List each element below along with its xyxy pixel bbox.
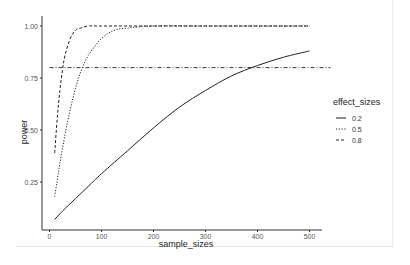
y-tick-label: 1.00 <box>24 23 38 30</box>
legend-label: 0.8 <box>352 137 362 144</box>
series-line-0.8 <box>55 26 310 153</box>
series-line-0.5 <box>55 26 310 197</box>
legend-label: 0.2 <box>352 115 362 122</box>
legend-entries: 0.20.50.8 <box>336 115 362 144</box>
y-axis-title: power <box>19 120 29 145</box>
x-axis-title: sample_sizes <box>159 239 214 249</box>
x-tick-label: 100 <box>96 233 108 240</box>
plot-lines <box>50 26 331 220</box>
legend-label: 0.5 <box>352 126 362 133</box>
y-tick-label: 0.75 <box>24 75 38 82</box>
y-axis-ticks: 0.250.500.751.00 <box>24 23 42 186</box>
x-tick-label: 500 <box>304 233 316 240</box>
y-tick-label: 0.25 <box>24 179 38 186</box>
x-tick-label: 0 <box>48 233 52 240</box>
x-tick-label: 400 <box>252 233 264 240</box>
x-tick-label: 200 <box>148 233 160 240</box>
legend: effect_sizes 0.20.50.8 <box>333 97 381 144</box>
series-line-0.2 <box>55 51 310 219</box>
legend-title: effect_sizes <box>333 97 381 107</box>
power-curve-chart: 0.250.500.751.00 0100200300400500 sample… <box>0 0 410 265</box>
